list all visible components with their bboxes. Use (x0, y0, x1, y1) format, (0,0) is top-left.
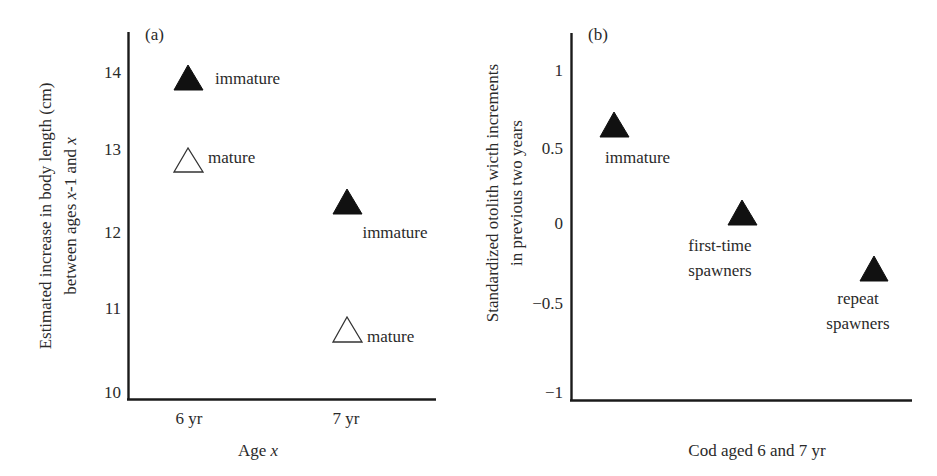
panel-b-y-axis-title: Standardized otolith wicth increments in… (483, 64, 526, 322)
panel-a-ytick: 10 (104, 383, 121, 402)
panel-a-y-axis-title: Estimated increase in body length (cm) b… (36, 83, 80, 350)
open-triangle-marker (333, 317, 362, 342)
panel-a-ytick: 12 (104, 223, 121, 242)
panel-b-label: (b) (588, 25, 608, 44)
filled-triangle-marker (174, 65, 203, 90)
point-label: mature (208, 148, 255, 167)
point-label: spawners (826, 314, 889, 333)
panel-a-ytick: 14 (104, 63, 122, 82)
panel-a-xtick: 7 yr (333, 409, 360, 428)
open-triangle-marker (174, 148, 203, 172)
point-label: first-time (688, 236, 751, 255)
filled-triangle-marker (860, 256, 888, 281)
filled-triangle-marker (333, 189, 362, 214)
point-label: spawners (688, 261, 751, 280)
panel-b-ytick: −0.5 (532, 294, 563, 313)
panel-b-y-title-line1: Standardized otolith wicth increments (483, 64, 502, 322)
point-label: immature (362, 223, 427, 242)
point-label: repeat (837, 289, 879, 308)
y-title-part: between ages (61, 199, 80, 294)
point-label: immature (605, 148, 670, 167)
panel-a-ytick: 13 (104, 140, 121, 159)
panel-a-y-title-line2: between ages x-1 and x (61, 137, 80, 295)
panel-a-y-title-line1: Estimated increase in body length (cm) (36, 83, 55, 350)
panel-a-x-axis-title: Age x (238, 441, 279, 460)
filled-triangle-marker (600, 112, 629, 137)
panel-a-ytick: 11 (105, 299, 121, 318)
panel-b: (b) Standardized otolith wicth increment… (483, 25, 912, 460)
filled-triangle-marker (728, 200, 757, 225)
panel-b-ytick: 0 (555, 214, 564, 233)
panel-a-xtick: 6 yr (176, 409, 203, 428)
point-label: mature (367, 327, 414, 346)
panel-b-ytick: −1 (545, 383, 563, 402)
figure: (a) Estimated increase in body length (c… (0, 0, 937, 476)
panel-a-label: (a) (145, 25, 164, 44)
panel-b-ytick: 0.5 (542, 139, 563, 158)
point-label: immature (215, 69, 280, 88)
panel-b-x-axis-title: Cod aged 6 and 7 yr (688, 441, 826, 460)
panel-a: (a) Estimated increase in body length (c… (36, 25, 436, 460)
panel-b-y-title-line2: in previous two years (507, 120, 526, 266)
panel-b-ytick: 1 (555, 61, 564, 80)
